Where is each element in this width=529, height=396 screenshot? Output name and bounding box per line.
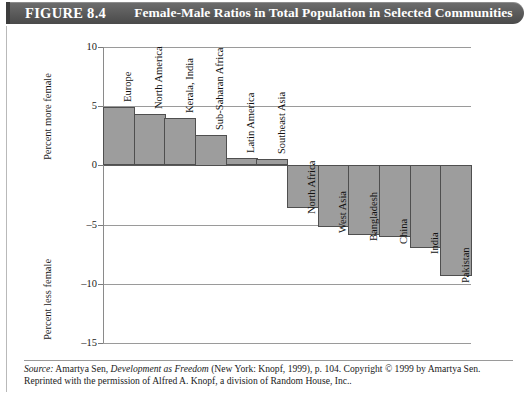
source-author: Amartya Sen, xyxy=(55,363,108,374)
bar-category-label: Europe xyxy=(122,72,133,102)
bar-category-label: Pakistan xyxy=(460,247,471,283)
source-divider xyxy=(24,360,513,361)
bar xyxy=(134,114,166,165)
bar xyxy=(256,159,288,165)
bar-category-label: Sub-Saharan Africa xyxy=(214,47,225,130)
bar-category-label: North America xyxy=(153,46,164,109)
y-axis-tick xyxy=(98,343,103,344)
bar-category-label: West Asia xyxy=(337,191,348,233)
bar-category-label: Latin America xyxy=(245,93,256,153)
source-note: Source: Amartya Sen, Development as Free… xyxy=(24,363,516,387)
y-axis-tick-label: –10 xyxy=(69,279,97,289)
y-axis-title-upper: Percent more female xyxy=(42,73,53,160)
y-gridline xyxy=(103,343,471,344)
bar xyxy=(226,158,258,165)
bar xyxy=(103,107,135,165)
y-axis-tick-label: 10 xyxy=(69,42,97,52)
figure-card: FIGURE 8.4 Female-Male Ratios in Total P… xyxy=(0,0,529,396)
bar-category-label: China xyxy=(398,219,409,244)
source-rest: (New York: Knopf, 1999), p. 104. Copyrig… xyxy=(211,363,480,374)
y-axis-tick-label: –5 xyxy=(69,220,97,230)
y-axis-tick-label: 5 xyxy=(69,101,97,111)
source-line2: Reprinted with the permission of Alfred … xyxy=(24,375,352,386)
chart-plot-area: 1050–5–10–15Percent more femalePercent l… xyxy=(0,0,529,356)
source-label: Source: xyxy=(24,363,53,374)
bar xyxy=(195,135,227,166)
bar-category-label: India xyxy=(429,232,440,254)
bar-category-label: Southeast Asia xyxy=(276,92,287,154)
y-axis-tick-label: –15 xyxy=(69,338,97,348)
bar-category-label: Kerala, India xyxy=(184,58,195,113)
bar xyxy=(164,118,196,165)
source-work-title: Development as Freedom xyxy=(111,363,209,374)
y-axis-title-lower: Percent less female xyxy=(42,259,53,340)
y-axis-line xyxy=(103,47,104,343)
y-axis-tick-label: 0 xyxy=(69,160,97,170)
y-gridline xyxy=(103,284,471,285)
bar-category-label: Bangladesh xyxy=(368,192,379,241)
bar-category-label: North Africa xyxy=(306,161,317,214)
